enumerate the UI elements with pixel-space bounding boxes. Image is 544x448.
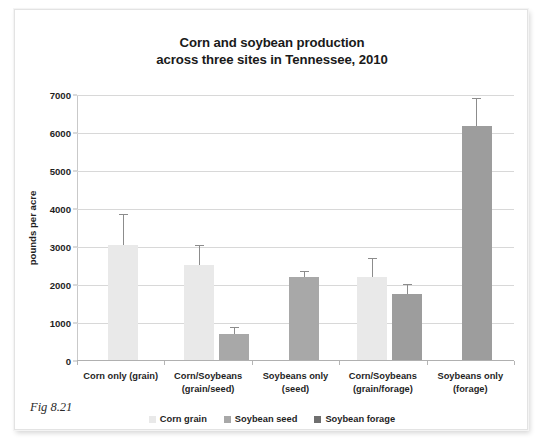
- y-axis-tick-label: 6000: [50, 128, 71, 139]
- y-axis-tick-mark: [73, 323, 77, 324]
- bar[interactable]: [357, 277, 387, 361]
- x-axis-baseline: [77, 360, 514, 361]
- error-bar-cap: [195, 245, 204, 246]
- error-bar: [199, 246, 200, 265]
- chart-title: Corn and soybean production across three…: [15, 34, 529, 68]
- legend-item[interactable]: Soybean forage: [314, 414, 395, 424]
- legend-swatch-icon: [314, 416, 321, 423]
- x-axis-category-label-line: Soybeans only: [427, 370, 514, 383]
- chart-legend: Corn grainSoybean seedSoybean forage: [15, 414, 529, 424]
- y-axis-tick-mark: [73, 285, 77, 286]
- y-axis-tick-mark: [73, 171, 77, 172]
- legend-swatch-icon: [149, 416, 156, 423]
- legend-label: Corn grain: [160, 414, 207, 424]
- bar-group: [289, 95, 319, 361]
- error-bar: [476, 99, 477, 126]
- y-axis-tick-label: 1000: [50, 318, 71, 329]
- y-axis-tick-mark: [73, 209, 77, 210]
- x-axis-category-label-line: Corn only (grain): [77, 370, 164, 383]
- x-axis-category-label-line: (seed): [252, 383, 339, 396]
- bar-group: [219, 95, 249, 361]
- error-bar: [234, 328, 235, 334]
- error-bar-cap: [368, 258, 377, 259]
- x-axis-category-label: Corn/Soybeans(grain/seed): [164, 370, 251, 395]
- y-axis-tick-mark: [73, 95, 77, 96]
- legend-label: Soybean seed: [235, 414, 298, 424]
- y-axis-tick-mark: [73, 247, 77, 248]
- y-axis-tick-label: 7000: [50, 90, 71, 101]
- error-bar: [407, 285, 408, 294]
- y-axis-tick-label: 0: [66, 356, 71, 367]
- legend-swatch-icon: [224, 416, 231, 423]
- x-axis-tick-mark: [514, 361, 515, 365]
- bar[interactable]: [462, 126, 492, 361]
- x-axis-category-label: Corn/Soybeans(grain/forage): [339, 370, 426, 395]
- plot-area: 01000200030004000500060007000: [77, 95, 514, 361]
- error-bar: [372, 259, 373, 277]
- error-bar-cap: [472, 98, 481, 99]
- y-axis-tick-mark: [73, 133, 77, 134]
- x-axis-category-label: Soybeans only(seed): [252, 370, 339, 395]
- figure-page: Corn and soybean production across three…: [0, 0, 544, 448]
- y-axis-tick-label: 4000: [50, 204, 71, 215]
- x-axis-category-label-line: Corn/Soybeans: [339, 370, 426, 383]
- bar[interactable]: [184, 265, 214, 361]
- y-axis-label: pounds per acre: [27, 95, 41, 361]
- y-axis-tick-label: 5000: [50, 166, 71, 177]
- x-axis-category-labels: Corn only (grain)Corn/Soybeans(grain/see…: [77, 370, 514, 410]
- x-axis-category-label-line: (forage): [427, 383, 514, 396]
- bar-group: [184, 95, 214, 361]
- x-axis-tick-mark: [77, 361, 78, 365]
- error-bar-cap: [403, 284, 412, 285]
- legend-item[interactable]: Soybean seed: [224, 414, 298, 424]
- bar-group: [108, 95, 138, 361]
- x-axis-tick-mark: [252, 361, 253, 365]
- chart-title-line-1: Corn and soybean production: [15, 34, 529, 51]
- x-axis-category-label-line: Soybeans only: [252, 370, 339, 383]
- chart-title-line-2: across three sites in Tennessee, 2010: [15, 51, 529, 68]
- x-axis-tick-mark: [164, 361, 165, 365]
- bar[interactable]: [289, 277, 319, 361]
- x-axis-category-label-line: (grain/seed): [164, 383, 251, 396]
- bar[interactable]: [392, 294, 422, 361]
- error-bar: [304, 272, 305, 278]
- x-axis-category-label-line: Corn/Soybeans: [164, 370, 251, 383]
- legend-item[interactable]: Corn grain: [149, 414, 207, 424]
- x-axis-category-label: Corn only (grain): [77, 370, 164, 383]
- bar-group: [357, 95, 387, 361]
- error-bar-cap: [300, 271, 309, 272]
- bar-group: [462, 95, 492, 361]
- x-axis-tick-mark: [427, 361, 428, 365]
- error-bar-cap: [119, 214, 128, 215]
- legend-label: Soybean forage: [325, 414, 395, 424]
- bar[interactable]: [219, 334, 249, 361]
- x-axis-tick-mark: [339, 361, 340, 365]
- error-bar: [123, 215, 124, 245]
- y-axis-tick-label: 2000: [50, 280, 71, 291]
- figure-caption: Fig 8.21: [30, 400, 72, 415]
- chart-card: Corn and soybean production across three…: [14, 9, 528, 430]
- bar[interactable]: [108, 245, 138, 361]
- x-axis-category-label-line: (grain/forage): [339, 383, 426, 396]
- error-bar-cap: [230, 327, 239, 328]
- x-axis-category-label: Soybeans only(forage): [427, 370, 514, 395]
- bar-group: [392, 95, 422, 361]
- y-axis-tick-label: 3000: [50, 242, 71, 253]
